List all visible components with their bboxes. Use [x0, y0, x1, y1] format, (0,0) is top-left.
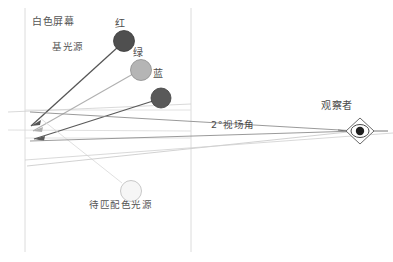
- label-blue-source: 蓝: [153, 68, 164, 79]
- label-white-screen: 白色屏幕: [32, 16, 74, 27]
- label-base-light-source: 基光源: [52, 42, 84, 52]
- eye-icon[interactable]: [338, 118, 388, 144]
- observer-eye-layer: [0, 0, 393, 262]
- label-field-of-view: 2°视场角: [211, 120, 255, 130]
- label-red-source: 红: [115, 18, 126, 29]
- eye-whisker-left: [338, 130, 346, 131]
- label-test-light-source: 待匹配色光源: [89, 200, 153, 210]
- label-green-source: 绿: [133, 47, 144, 58]
- eye-pupil: [356, 127, 364, 135]
- diagram-canvas: 白色屏幕 基光源 红 绿 蓝 2°视场角 观察者 待匹配色光源: [0, 0, 393, 262]
- label-observer: 观察者: [321, 100, 353, 111]
